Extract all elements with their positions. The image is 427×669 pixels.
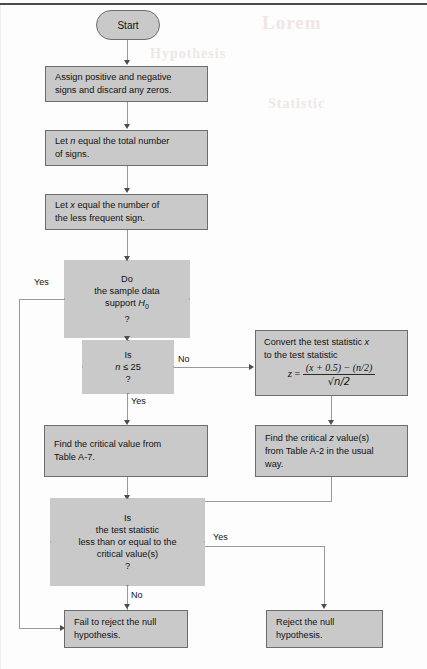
node-decision-compare: Is the test statistic less than or equal…: [50, 498, 205, 586]
n-le-25-operator: ≤ 25: [120, 362, 140, 372]
arrowhead-nle25-no-to-convert: [249, 364, 254, 370]
crit-a2-line3: way.: [265, 459, 283, 469]
edge-supporth0-yes-vertical: [19, 299, 20, 629]
node-let-x: Let x equal the number of the less frequ…: [45, 194, 208, 230]
crit-a7-line2: Table A-7.: [54, 452, 95, 462]
ghost-text-2: Hypothesis: [150, 46, 226, 62]
node-find-critical-z-a2: Find the critical z value(s) from Table …: [255, 425, 408, 477]
edge-label-compare-yes: Yes: [213, 532, 228, 542]
edge-label-support-h0-yes: Yes: [34, 277, 49, 287]
fail-reject-line1: Fail to reject the null: [74, 617, 156, 627]
fail-reject-line2: hypothesis.: [74, 630, 120, 640]
let-n-line2: of signs.: [55, 149, 89, 159]
z-formula-numerator: (x + 0.5) − (n/2): [303, 361, 376, 374]
support-h0-line2: the sample data: [94, 286, 159, 296]
node-find-critical-value-a7: Find the critical value from Table A-7.: [44, 425, 208, 477]
convert-variable-x: x: [365, 337, 370, 347]
edge-label-n-le-25-yes: Yes: [131, 396, 146, 406]
node-let-n: Let n equal the total number of signs.: [45, 130, 208, 166]
node-start: Start: [96, 10, 160, 40]
page-left-edge: [0, 5, 1, 669]
convert-line1-a: Convert the test statistic: [264, 337, 365, 347]
edge-compare-yes-vertical: [324, 546, 325, 607]
node-fail-to-reject: Fail to reject the null hypothesis.: [64, 610, 188, 648]
compare-line3: less than or equal to the: [78, 537, 176, 547]
convert-line2: to the test statistic: [264, 350, 338, 360]
let-n-line1-b: equal the total number: [75, 136, 169, 146]
z-formula-fraction: (x + 0.5) − (n/2) √n/2: [303, 361, 376, 388]
compare-line5: ?: [125, 561, 130, 571]
node-start-label: Start: [117, 19, 138, 32]
assign-signs-line2: signs and discard any zeros.: [55, 85, 171, 95]
assign-signs-line1: Assign positive and negative: [55, 72, 171, 82]
reject-line2: hypothesis.: [276, 630, 322, 640]
arrowhead-assign-to-letn: [124, 124, 130, 129]
edge-convert-to-critz: [331, 396, 332, 423]
compare-line1: Is: [124, 513, 131, 523]
let-x-line1-a: Let: [55, 200, 70, 210]
compare-line2: the test statistic: [96, 525, 159, 535]
let-n-line1-a: Let: [55, 136, 70, 146]
crit-a7-line1: Find the critical value from: [54, 439, 161, 449]
arrowhead-compare-no-to-failreject: [124, 604, 130, 609]
flowchart-page: Lorem Hypothesis Statistic Start Assign …: [0, 0, 427, 669]
let-x-line1-b: equal the number of: [75, 200, 159, 210]
reject-line1: Reject the null: [276, 617, 334, 627]
n-le-25-line3: ?: [125, 374, 130, 384]
n-le-25-line1: Is: [124, 350, 131, 360]
ghost-text-1: Lorem: [262, 12, 322, 34]
edge-critz-down: [331, 477, 332, 501]
edge-compare-yes-horizontal: [205, 546, 324, 547]
edge-assign-to-letn: [127, 102, 128, 126]
support-h0-line3-a: support: [105, 298, 138, 308]
support-h0-subscript: 0: [145, 303, 149, 310]
ghost-text-3: Statistic: [268, 96, 325, 112]
node-assign-signs: Assign positive and negative signs and d…: [45, 66, 208, 102]
edge-supporth0-yes-horizontal: [19, 299, 65, 300]
edge-label-compare-no: No: [131, 590, 143, 600]
edge-nle25-yes-vertical: [127, 394, 128, 423]
compare-line4: critical value(s): [97, 549, 158, 559]
support-h0-line1: Do: [121, 274, 133, 284]
edge-letn-to-letx: [127, 166, 128, 190]
let-x-line2: the less frequent sign.: [55, 213, 145, 223]
edge-label-n-le-25-no: No: [178, 354, 190, 364]
edge-letx-to-supporth0: [127, 230, 128, 258]
page-top-rule: [0, 3, 427, 5]
edge-supporth0-yes-to-failreject: [19, 628, 64, 629]
edge-start-to-assign: [127, 40, 128, 61]
support-h0-line4: ?: [124, 314, 129, 324]
arrowhead-compare-yes-to-reject: [321, 604, 327, 609]
z-formula-equals: =: [295, 368, 301, 379]
edge-nle25-no-horizontal: [174, 367, 251, 368]
crit-a2-line1-b: value(s): [334, 433, 369, 443]
z-formula-denominator: √n/2: [303, 374, 376, 388]
node-decision-support-h0: Do the sample data support H0 ?: [64, 260, 190, 338]
node-decision-n-le-25: Is n ≤ 25 ?: [82, 340, 174, 394]
crit-a2-line1-a: Find the critical: [265, 433, 329, 443]
support-h0-hypothesis: H: [138, 298, 145, 308]
node-reject: Reject the null hypothesis.: [266, 610, 383, 648]
crit-a2-line2: from Table A-2 in the usual: [265, 446, 374, 456]
arrowhead-start-to-assign: [124, 60, 130, 65]
node-convert-test-statistic: Convert the test statistic x to the test…: [255, 330, 408, 396]
arrowhead-letn-to-letx: [124, 188, 130, 193]
z-formula-lhs: z: [288, 367, 292, 379]
z-formula: z = (x + 0.5) − (n/2) √n/2: [256, 361, 407, 388]
